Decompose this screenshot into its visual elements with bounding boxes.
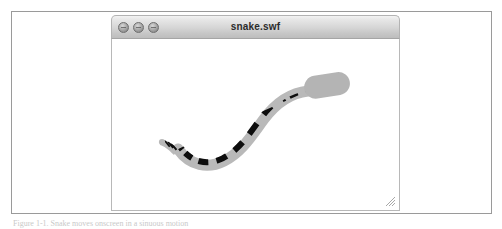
figure-frame: snake.swf (11, 11, 492, 214)
minimize-button[interactable] (133, 22, 144, 33)
application-window: snake.swf (111, 15, 400, 211)
snake-tail (159, 139, 178, 155)
close-button[interactable] (118, 22, 129, 33)
flash-stage[interactable] (111, 39, 400, 211)
figure-caption: Figure 1-1. Snake moves onscreen in a si… (13, 218, 483, 229)
snake-illustration (112, 39, 399, 209)
resize-grip[interactable] (384, 195, 396, 207)
window-controls (118, 16, 159, 38)
window-title-bar[interactable]: snake.swf (111, 15, 400, 39)
zoom-button[interactable] (148, 22, 159, 33)
snake-head (303, 70, 352, 100)
